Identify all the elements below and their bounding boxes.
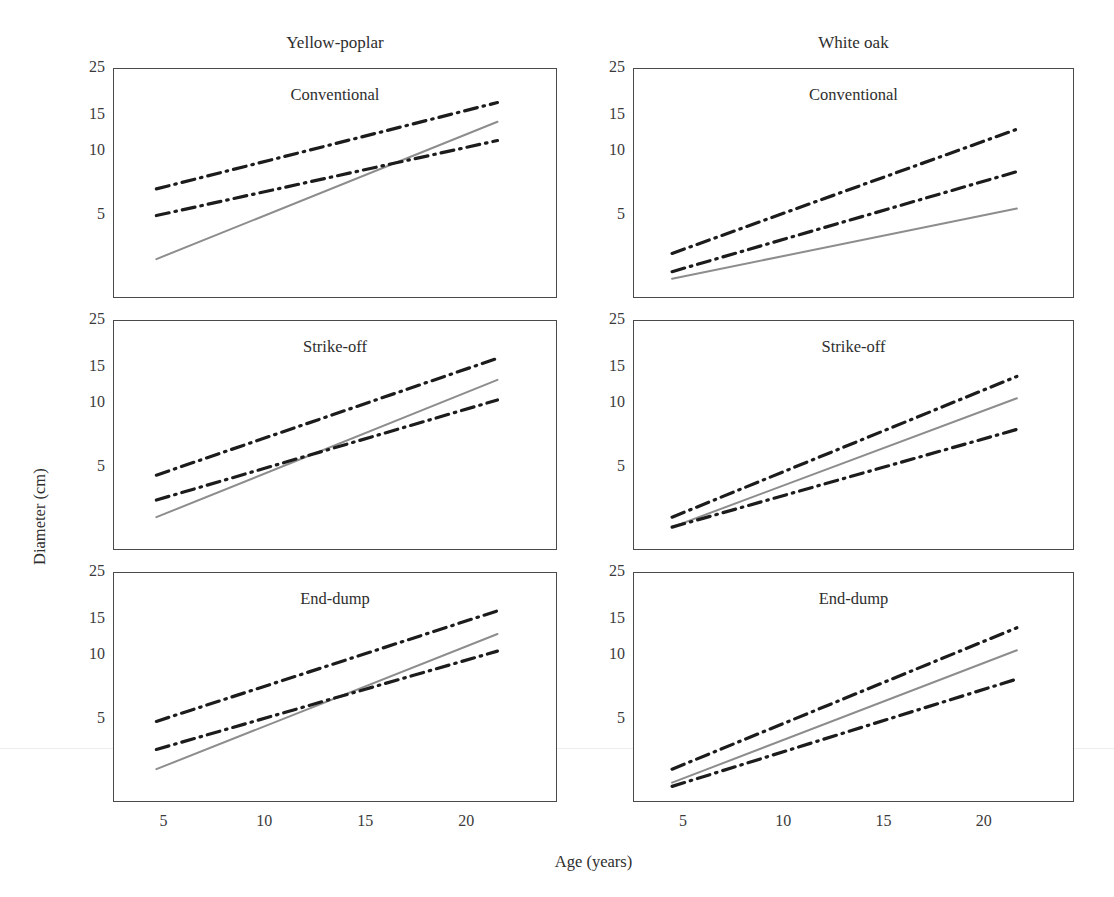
y-tick-white-oak-conventional-25: 25 bbox=[585, 58, 625, 76]
line-white-oak-end-dump-upper-bound bbox=[672, 628, 1017, 769]
line-white-oak-end-dump-mean bbox=[672, 650, 1017, 782]
panel-white-oak-conventional: Conventional bbox=[633, 68, 1074, 298]
x-tick-white-oak-end-dump-20: 20 bbox=[964, 812, 1004, 830]
figure-canvas: Yellow-poplar White oak Diameter (cm) Ag… bbox=[0, 0, 1114, 897]
y-tick-yellow-poplar-conventional-5: 5 bbox=[65, 205, 105, 223]
y-tick-white-oak-strike-off-5: 5 bbox=[585, 457, 625, 475]
x-axis-label: Age (years) bbox=[113, 852, 1074, 872]
line-yellow-poplar-strike-off-lower-bound bbox=[156, 400, 497, 500]
line-white-oak-strike-off-mean bbox=[672, 398, 1017, 527]
x-tick-yellow-poplar-end-dump-5: 5 bbox=[143, 812, 183, 830]
x-tick-yellow-poplar-end-dump-15: 15 bbox=[345, 812, 385, 830]
line-white-oak-strike-off-lower-bound bbox=[672, 429, 1017, 527]
y-axis-label: Diameter (cm) bbox=[30, 468, 50, 565]
x-tick-yellow-poplar-end-dump-10: 10 bbox=[244, 812, 284, 830]
y-tick-white-oak-conventional-5: 5 bbox=[585, 205, 625, 223]
line-white-oak-conventional-upper-bound bbox=[672, 129, 1017, 253]
panel-yellow-poplar-conventional: Conventional bbox=[113, 68, 557, 298]
series-layer-white-oak-end-dump bbox=[634, 573, 1075, 803]
line-yellow-poplar-strike-off-upper-bound bbox=[156, 358, 497, 475]
y-tick-yellow-poplar-strike-off-15: 15 bbox=[65, 357, 105, 375]
x-tick-white-oak-end-dump-15: 15 bbox=[864, 812, 904, 830]
y-tick-yellow-poplar-conventional-15: 15 bbox=[65, 105, 105, 123]
series-layer-yellow-poplar-conventional bbox=[114, 69, 558, 299]
line-yellow-poplar-conventional-lower-bound bbox=[156, 141, 497, 216]
column-title-yellow-poplar: Yellow-poplar bbox=[113, 33, 557, 53]
y-tick-white-oak-end-dump-25: 25 bbox=[585, 562, 625, 580]
y-tick-yellow-poplar-conventional-25: 25 bbox=[65, 58, 105, 76]
y-tick-yellow-poplar-end-dump-10: 10 bbox=[65, 645, 105, 663]
series-layer-yellow-poplar-strike-off bbox=[114, 321, 558, 551]
y-tick-yellow-poplar-end-dump-5: 5 bbox=[65, 709, 105, 727]
y-tick-white-oak-conventional-10: 10 bbox=[585, 141, 625, 159]
y-tick-white-oak-strike-off-10: 10 bbox=[585, 393, 625, 411]
line-white-oak-conventional-lower-bound bbox=[672, 172, 1017, 272]
y-tick-white-oak-end-dump-10: 10 bbox=[585, 645, 625, 663]
y-tick-white-oak-end-dump-15: 15 bbox=[585, 609, 625, 627]
column-title-white-oak: White oak bbox=[633, 33, 1074, 53]
y-tick-white-oak-strike-off-25: 25 bbox=[585, 310, 625, 328]
x-tick-white-oak-end-dump-5: 5 bbox=[663, 812, 703, 830]
line-yellow-poplar-conventional-upper-bound bbox=[156, 103, 497, 189]
panel-yellow-poplar-strike-off: Strike-off bbox=[113, 320, 557, 550]
series-layer-white-oak-strike-off bbox=[634, 321, 1075, 551]
y-tick-white-oak-end-dump-5: 5 bbox=[585, 709, 625, 727]
x-tick-yellow-poplar-end-dump-20: 20 bbox=[446, 812, 486, 830]
y-tick-yellow-poplar-strike-off-10: 10 bbox=[65, 393, 105, 411]
y-tick-yellow-poplar-end-dump-25: 25 bbox=[65, 562, 105, 580]
x-tick-white-oak-end-dump-10: 10 bbox=[763, 812, 803, 830]
y-tick-yellow-poplar-end-dump-15: 15 bbox=[65, 609, 105, 627]
line-white-oak-strike-off-upper-bound bbox=[672, 376, 1017, 517]
panel-yellow-poplar-end-dump: End-dump bbox=[113, 572, 557, 802]
line-yellow-poplar-conventional-mean bbox=[156, 122, 497, 259]
y-tick-yellow-poplar-strike-off-25: 25 bbox=[65, 310, 105, 328]
panel-white-oak-strike-off: Strike-off bbox=[633, 320, 1074, 550]
y-tick-yellow-poplar-strike-off-5: 5 bbox=[65, 457, 105, 475]
series-layer-white-oak-conventional bbox=[634, 69, 1075, 299]
line-white-oak-end-dump-lower-bound bbox=[672, 679, 1017, 786]
series-layer-yellow-poplar-end-dump bbox=[114, 573, 558, 803]
y-tick-yellow-poplar-conventional-10: 10 bbox=[65, 141, 105, 159]
panel-white-oak-end-dump: End-dump bbox=[633, 572, 1074, 802]
line-white-oak-conventional-mean bbox=[672, 209, 1017, 279]
y-tick-white-oak-conventional-15: 15 bbox=[585, 105, 625, 123]
y-tick-white-oak-strike-off-15: 15 bbox=[585, 357, 625, 375]
